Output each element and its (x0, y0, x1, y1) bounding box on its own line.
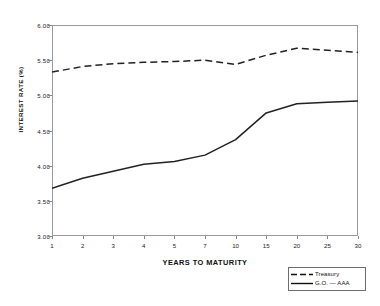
x-axis-tick-mark (205, 236, 206, 239)
x-axis-tick-mark (144, 236, 145, 239)
x-axis-ticks: 1234571015202530 (52, 236, 358, 258)
x-axis-tick-label: 1 (40, 242, 64, 249)
y-axis-tick-label: 5.50 (4, 57, 50, 64)
interest-rate-line-chart: INTEREST RATE (%) 6.005.505.004.504.003.… (0, 0, 380, 306)
x-axis-tick-mark (327, 236, 328, 239)
x-axis-tick-label: 7 (193, 242, 217, 249)
dashed-line-icon (291, 271, 313, 278)
x-axis-tick-mark (297, 236, 298, 239)
x-axis-tick-mark (52, 236, 53, 239)
x-axis-tick-mark (236, 236, 237, 239)
y-axis-tick-label: 6.00 (4, 22, 50, 29)
y-axis-tick-label: 5.00 (4, 92, 50, 99)
legend-label: Treasury (315, 271, 339, 277)
y-axis-tick-label: 4.00 (4, 162, 50, 169)
x-axis-tick-label: 5 (162, 242, 186, 249)
x-axis-title: YEARS TO MATURITY (52, 258, 358, 267)
x-axis-tick-mark (83, 236, 84, 239)
x-axis-tick-label: 20 (285, 242, 309, 249)
x-axis-tick-label: 3 (101, 242, 125, 249)
x-axis-tick-label: 15 (254, 242, 278, 249)
x-axis-tick-label: 2 (71, 242, 95, 249)
x-axis-tick-label: 10 (224, 242, 248, 249)
solid-line-icon (291, 280, 313, 287)
x-axis-tick-label: 25 (315, 242, 339, 249)
x-axis-tick-mark (113, 236, 114, 239)
x-axis-tick-mark (266, 236, 267, 239)
y-axis-ticks: 6.005.505.004.504.003.503.00 (0, 25, 50, 236)
series-line-treasury (52, 48, 358, 72)
plot-series-canvas (52, 25, 358, 236)
x-axis-tick-mark (358, 236, 359, 239)
y-axis-tick-label: 3.00 (4, 233, 50, 240)
legend-label: G.O. — AAA (315, 280, 350, 286)
x-axis-tick-mark (174, 236, 175, 239)
chart-legend: TreasuryG.O. — AAA (288, 267, 366, 291)
x-axis-tick-label: 30 (346, 242, 370, 249)
legend-entry[interactable]: Treasury (291, 270, 363, 279)
y-axis-tick-label: 3.50 (4, 197, 50, 204)
series-line-g-o-aaa (52, 101, 358, 188)
legend-entry[interactable]: G.O. — AAA (291, 279, 363, 288)
x-axis-tick-label: 4 (132, 242, 156, 249)
y-axis-tick-label: 4.50 (4, 127, 50, 134)
